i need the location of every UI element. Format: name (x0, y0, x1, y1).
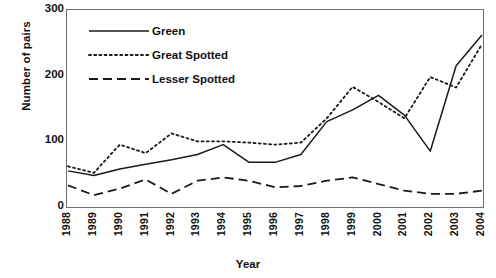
x-tick-label: 2000 (372, 212, 383, 236)
legend-label: Great Spotted (152, 49, 228, 61)
y-tick-label: 300 (18, 3, 64, 15)
series-line-green (68, 35, 482, 176)
series-line-lesser-spotted (68, 177, 482, 195)
legend-label: Lesser Spotted (152, 73, 235, 85)
x-tick-label: 1991 (139, 212, 150, 236)
series-line-great-spotted (68, 44, 482, 173)
x-tick-label: 1990 (113, 212, 124, 236)
x-tick-label: 1996 (268, 212, 279, 236)
chart-figure: Number of pairs 0100200300 GreenGreat Sp… (0, 0, 496, 278)
chart-canvas: GreenGreat SpottedLesser Spotted (67, 10, 483, 207)
x-tick-label: 1999 (346, 212, 357, 236)
x-tick-label: 1988 (61, 212, 72, 236)
x-tick-label: 1993 (190, 212, 201, 236)
x-tick-label: 2003 (449, 212, 460, 236)
x-tick-label: 2004 (475, 212, 486, 236)
x-axis-title: Year (0, 258, 496, 270)
x-tick-label: 2001 (397, 212, 408, 236)
x-tick-label: 1995 (242, 212, 253, 236)
x-tick-label: 1992 (165, 212, 176, 236)
x-tick-label: 1998 (320, 212, 331, 236)
plot-area: GreenGreat SpottedLesser Spotted (66, 9, 484, 208)
x-tick-label: 1989 (87, 212, 98, 236)
y-tick-label: 100 (18, 134, 64, 146)
x-tick-label: 2002 (423, 212, 434, 236)
x-axis-tick-labels: 1988198919901991199219931994199519961997… (0, 212, 496, 258)
y-tick-label: 200 (18, 69, 64, 81)
legend-label: Green (152, 25, 185, 37)
x-tick-label: 1997 (294, 212, 305, 236)
y-tick-label: 0 (18, 200, 64, 212)
x-tick-label: 1994 (216, 212, 227, 236)
